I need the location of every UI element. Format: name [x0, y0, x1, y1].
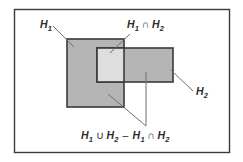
label-diff-op2: – [123, 129, 129, 141]
label-intersection-h1-sub: 1 [135, 24, 139, 33]
label-diff-t4-base: H [158, 129, 166, 141]
label-diff-t3-base: H [133, 129, 141, 141]
label-diff-t4-sub: 2 [164, 135, 170, 144]
label-h1-base: H [40, 18, 48, 30]
label-diff-t2-base: H [106, 129, 114, 141]
label-diff-op3: ∩ [147, 129, 155, 141]
set-diagram-figure: H1 H1∩H2 H2 H1∪H2–H1∩H2 [0, 0, 243, 162]
label-intersection-h2-base: H [152, 18, 160, 30]
label-diff-t3-sub: 1 [140, 135, 144, 144]
label-diff-t1-sub: 1 [89, 135, 93, 144]
label-intersection-operator: ∩ [142, 18, 150, 30]
label-diff-t1-base: H [81, 129, 89, 141]
label-diff-t2-sub: 2 [113, 135, 119, 144]
label-h1-sub: 1 [48, 24, 52, 33]
label-intersection-h2-sub: 2 [159, 24, 165, 33]
label-h2-base: H [196, 85, 204, 97]
label-h2-sub: 2 [203, 91, 209, 100]
label-intersection-h1-base: H [127, 18, 135, 30]
label-diff-op1: ∪ [96, 129, 104, 141]
diagram-canvas: H1 H1∩H2 H2 H1∪H2–H1∩H2 [0, 0, 243, 162]
